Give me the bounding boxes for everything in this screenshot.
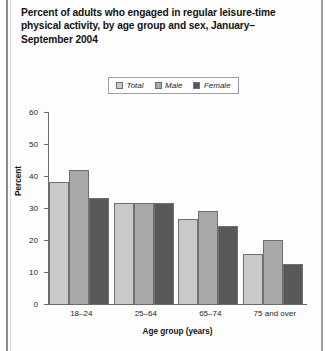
- y-axis-tick-label: 10: [29, 268, 38, 277]
- y-axis-tick: 20: [44, 240, 48, 241]
- legend-label-female: Female: [204, 81, 231, 90]
- legend-item-male: Male: [155, 81, 183, 90]
- y-axis-tick: 0: [44, 304, 48, 305]
- plot-area: 0102030405060: [48, 112, 307, 305]
- page-edge-rule: [6, 0, 8, 351]
- legend-swatch-female: [193, 82, 200, 89]
- chart-legend: Total Male Female: [108, 77, 239, 94]
- bar-male: [263, 240, 283, 304]
- legend-item-female: Female: [193, 81, 230, 90]
- bar-male: [134, 203, 154, 304]
- bar-total: [178, 219, 198, 304]
- y-axis-title: Percent: [14, 166, 23, 196]
- x-axis-tick-label: 75 and over: [243, 309, 308, 318]
- bar-female: [283, 264, 303, 304]
- legend-label-male: Male: [165, 81, 182, 90]
- chart-title: Percent of adults who engaged in regular…: [21, 6, 296, 46]
- y-axis-tick: 30: [44, 208, 48, 209]
- x-axis-line: [48, 304, 307, 305]
- y-axis-tick-label: 50: [29, 140, 38, 149]
- y-axis-tick: 50: [44, 144, 48, 145]
- y-axis-tick-label: 60: [29, 108, 38, 117]
- legend-item-total: Total: [116, 81, 144, 90]
- bar-total: [49, 182, 69, 304]
- bar-total: [114, 203, 134, 304]
- y-axis-tick-label: 20: [29, 236, 38, 245]
- bar-group: [178, 112, 243, 304]
- legend-label-total: Total: [127, 81, 144, 90]
- bar-female: [154, 203, 174, 304]
- bar-female: [218, 226, 238, 304]
- bars-layer: [49, 112, 307, 304]
- x-axis-tick-labels: 18–2425–6465–7475 and over: [49, 309, 307, 318]
- y-axis-tick-label: 0: [34, 300, 38, 309]
- x-axis-tick-label: 18–24: [49, 309, 114, 318]
- x-axis-title: Age group (years): [48, 327, 307, 336]
- bar-male: [69, 170, 89, 304]
- page-edge-rule-right: [321, 0, 323, 351]
- y-axis-tick: 60: [44, 112, 48, 113]
- bar-total: [243, 254, 263, 304]
- chart-page: Percent of adults who engaged in regular…: [0, 0, 325, 351]
- x-axis-tick-label: 65–74: [178, 309, 243, 318]
- bar-group: [114, 112, 179, 304]
- bar-group: [49, 112, 114, 304]
- y-axis-tick: 10: [44, 272, 48, 273]
- y-axis-tick: 40: [44, 176, 48, 177]
- legend-swatch-male: [155, 82, 162, 89]
- legend-swatch-total: [116, 82, 123, 89]
- y-axis-tick-label: 30: [29, 204, 38, 213]
- bar-male: [198, 211, 218, 304]
- x-axis-tick-label: 25–64: [114, 309, 179, 318]
- bar-group: [243, 112, 308, 304]
- y-axis-tick-label: 40: [29, 172, 38, 181]
- bar-female: [89, 198, 109, 304]
- page-edge-rule-secondary: [10, 0, 11, 351]
